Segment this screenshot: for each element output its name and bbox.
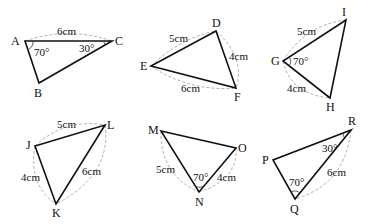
side-gi-length: 5cm [297,25,316,37]
triangle-mno: M O N 5cm 4cm 70° [148,123,247,209]
vertex-l-label: L [107,118,114,132]
side-jl-length: 5cm [57,118,76,130]
angle-g-value: 70° [293,55,308,67]
triangle-def: D E F 5cm 4cm 6cm [140,16,248,104]
congruent-triangles-figure: A B C 6cm 70° 30° D E F 5cm 4cm 6cm I G … [0,0,369,224]
side-mn-length: 5cm [156,163,175,175]
vertex-g-label: G [271,54,280,68]
triangle-jkl: J L K 5cm 4cm 6cm [21,118,114,220]
vertex-r-label: R [348,114,356,128]
side-no-length: 4cm [217,171,236,183]
vertex-j-label: J [26,138,31,152]
vertex-o-label: O [238,141,247,155]
vertex-b-label: B [34,86,42,100]
side-ef-length: 6cm [181,82,200,94]
side-df-length: 4cm [229,50,248,62]
side-ac-length: 6cm [57,25,76,37]
side-kl-length: 6cm [82,165,101,177]
angle-a-value: 70° [34,46,49,58]
angle-r-value: 30° [322,142,337,154]
vertex-q-label: Q [290,202,299,216]
angle-q-value: 70° [289,176,304,188]
side-gh-length: 4cm [287,82,306,94]
vertex-c-label: C [115,34,123,48]
vertex-a-label: A [11,34,20,48]
side-de-length: 5cm [169,32,188,44]
vertex-k-label: K [52,206,61,220]
angle-g-arc [289,57,291,66]
vertex-m-label: M [148,123,159,137]
triangle-pqr: R P Q 30° 6cm 70° [262,114,356,216]
triangle-pqr-edges [273,130,351,199]
triangle-ghi: I G H 5cm 4cm 70° [271,5,346,114]
vertex-d-label: D [212,16,221,30]
angle-c-value: 30° [79,42,94,54]
angle-n-value: 70° [193,171,208,183]
vertex-p-label: P [262,153,269,167]
vertex-e-label: E [140,59,147,73]
side-qr-length: 6cm [327,166,346,178]
vertex-i-label: I [342,5,346,19]
vertex-f-label: F [234,90,241,104]
angle-a-arc [29,42,33,49]
vertex-n-label: N [195,195,204,209]
vertex-h-label: H [326,100,335,114]
side-jk-length: 4cm [21,171,40,183]
triangle-abc: A B C 6cm 70° 30° [11,25,123,100]
triangle-def-edges [151,31,236,88]
